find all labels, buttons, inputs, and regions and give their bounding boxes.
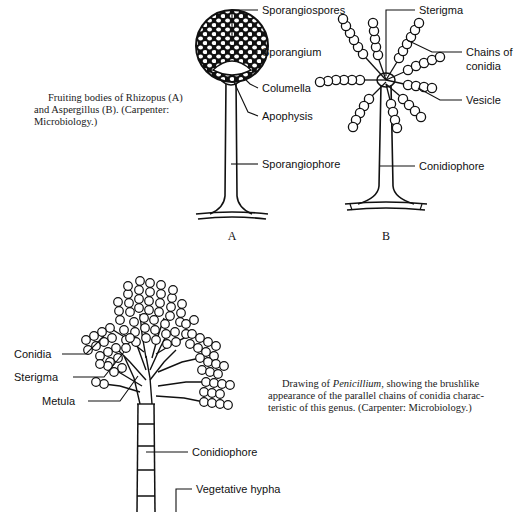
- label-conidia: Conidia: [14, 348, 52, 360]
- conidia-chains-c: [82, 277, 235, 410]
- label-vegetative-hypha: Vegetative hypha: [196, 483, 281, 495]
- figure-a-rhizopus: Sporangiospores Sporangium Columella Apo…: [195, 4, 346, 243]
- caption-bottom-line2: appearance of the parallel chains of con…: [268, 390, 484, 401]
- label-columella: Columella: [262, 82, 312, 94]
- label-sporangium: Sporangium: [262, 46, 321, 58]
- basal-hypha-b: [345, 202, 427, 210]
- figure-letter-a: A: [228, 229, 237, 243]
- label-sterigma-b: Sterigma: [419, 4, 464, 16]
- sporangiophore-stalk: [210, 80, 252, 214]
- caption-top-line3: Microbiology.): [34, 116, 97, 127]
- label-vesicle: Vesicle: [466, 94, 501, 106]
- basal-hypha-a: [196, 212, 268, 219]
- label-conidiophore-b: Conidiophore: [419, 160, 484, 172]
- label-sporangiospores: Sporangiospores: [262, 4, 346, 16]
- label-apophysis: Apophysis: [262, 110, 313, 122]
- caption-top-line2: and Aspergillus (B). (Carpenter:: [34, 104, 169, 115]
- label-metula: Metula: [42, 395, 76, 407]
- diagram-root: Sporangiospores Sporangium Columella Apo…: [0, 0, 520, 512]
- caption-top-line1: Fruiting bodies of Rhizopus (A): [48, 92, 183, 103]
- label-sterigma-c: Sterigma: [14, 371, 59, 383]
- label-sporangiophore: Sporangiophore: [262, 158, 340, 170]
- caption-bottom-line1-prefix: Drawing of: [282, 378, 333, 389]
- figure-letter-b: B: [382, 229, 390, 243]
- fungal-diagram-svg: Sporangiospores Sporangium Columella Apo…: [0, 0, 520, 512]
- conidiophore-stalk-c: [137, 404, 155, 512]
- caption-top-left: Fruiting bodies of Rhizopus (A) and Aspe…: [34, 92, 202, 129]
- caption-bottom-line1-suffix: showing the brushlike: [384, 378, 479, 389]
- figure-b-aspergillus: Sterigma Chains of conidia Vesicle Conid…: [315, 4, 513, 243]
- caption-bottom-right: Drawing of Penicillium, showing the brus…: [268, 378, 506, 415]
- species-name-penicillium: Penicillium,: [333, 378, 384, 389]
- label-conidiophore-c: Conidiophore: [192, 446, 257, 458]
- label-chains-of-conidia-line2: conidia: [466, 60, 502, 72]
- caption-bottom-line3: teristic of this genus. (Carpenter: Micr…: [268, 402, 472, 413]
- figure-c-penicillium: Conidia Sterigma Metula Conidiophore Veg…: [14, 277, 281, 512]
- label-chains-of-conidia-line1: Chains of: [466, 46, 513, 58]
